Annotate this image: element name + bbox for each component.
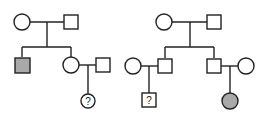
male-unaffected — [64, 15, 78, 29]
pedigree-right: ? — [125, 14, 254, 109]
female-unaffected — [63, 57, 79, 73]
female-unaffected — [156, 14, 172, 30]
unknown-label: ? — [146, 95, 152, 106]
unknown-label: ? — [85, 96, 91, 107]
male-unaffected — [207, 59, 221, 73]
female-unaffected — [125, 58, 141, 74]
female-unaffected — [14, 14, 30, 30]
male-unaffected — [207, 15, 221, 29]
male-unaffected — [96, 58, 110, 72]
pedigree-left: ? — [14, 14, 110, 108]
pedigree-diagram: ? ? — [0, 0, 272, 116]
male-affected — [15, 58, 30, 73]
female-affected — [222, 93, 238, 109]
male-unaffected — [158, 59, 172, 73]
female-unaffected — [238, 58, 254, 74]
